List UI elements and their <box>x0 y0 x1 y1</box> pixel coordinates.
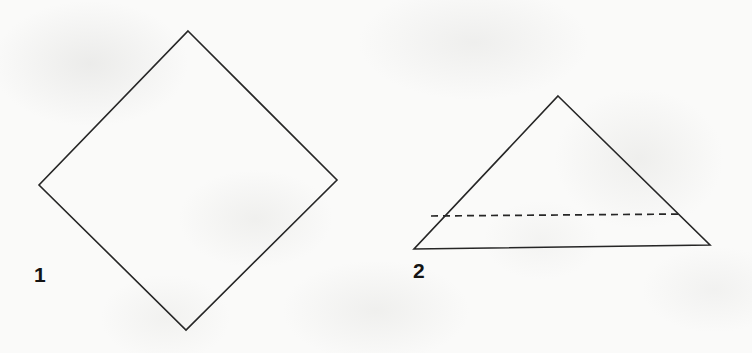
triangle-dashed-crossline <box>431 214 683 216</box>
figure-page: 1 2 <box>0 0 752 353</box>
figure-label-1: 1 <box>34 264 46 285</box>
diamond-shape <box>39 31 337 330</box>
figure-canvas <box>0 0 752 353</box>
figure-label-2: 2 <box>413 260 425 281</box>
triangle-shape <box>414 96 710 249</box>
